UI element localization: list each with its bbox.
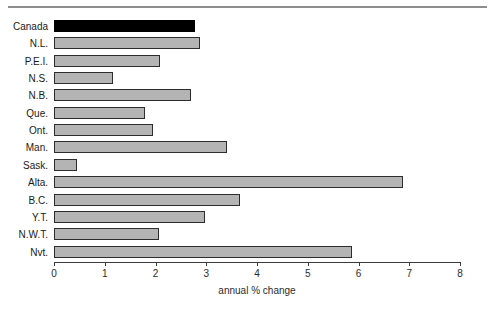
bar-category-label: N.L. [0, 38, 48, 50]
bar-row: Canada [0, 20, 501, 37]
x-axis-title: annual % change [54, 285, 460, 296]
bar-man[interactable] [54, 141, 227, 153]
bar-p-e-i[interactable] [54, 55, 160, 67]
x-tick-mark [308, 262, 309, 266]
bar-category-label: Man. [0, 142, 48, 154]
bar-row: Y.T. [0, 211, 501, 228]
bar-alta[interactable] [54, 176, 403, 188]
x-tick-mark [156, 262, 157, 266]
bar-y-t[interactable] [54, 211, 205, 223]
bar-row: B.C. [0, 194, 501, 211]
bar-category-label: N.B. [0, 90, 48, 102]
x-tick-mark [257, 262, 258, 266]
plot-area: CanadaN.L.P.E.I.N.S.N.B.Que.Ont.Man.Sask… [0, 0, 501, 311]
bar-canada[interactable] [54, 20, 195, 32]
bar-row: Nvt. [0, 246, 501, 263]
bar-category-label: B.C. [0, 195, 48, 207]
x-tick-label: 0 [39, 268, 69, 280]
bar-n-b[interactable] [54, 89, 191, 101]
bar-sask[interactable] [54, 159, 77, 171]
x-tick-label: 4 [242, 268, 272, 280]
bar-b-c[interactable] [54, 194, 240, 206]
bar-row: Alta. [0, 176, 501, 193]
bar-category-label: N.W.T. [0, 229, 48, 241]
bar-nvt[interactable] [54, 246, 352, 258]
x-tick-mark [54, 262, 55, 266]
x-tick-mark [206, 262, 207, 266]
bar-category-label: Alta. [0, 177, 48, 189]
bar-row: Ont. [0, 124, 501, 141]
bar-row: Sask. [0, 159, 501, 176]
bar-row: N.L. [0, 37, 501, 54]
bar-row: N.W.T. [0, 228, 501, 245]
bar-row: Man. [0, 141, 501, 158]
x-tick-mark [460, 262, 461, 266]
x-tick-mark [105, 262, 106, 266]
x-tick-label: 8 [445, 268, 475, 280]
bar-category-label: Nvt. [0, 247, 48, 259]
bar-row: N.S. [0, 72, 501, 89]
x-tick-label: 7 [394, 268, 424, 280]
x-tick-label: 5 [293, 268, 323, 280]
bar-category-label: Ont. [0, 125, 48, 137]
chart-root: CanadaN.L.P.E.I.N.S.N.B.Que.Ont.Man.Sask… [0, 0, 501, 311]
x-tick-label: 6 [344, 268, 374, 280]
bar-category-label: N.S. [0, 73, 48, 85]
bar-row: N.B. [0, 89, 501, 106]
x-tick-mark [359, 262, 360, 266]
x-tick-label: 1 [90, 268, 120, 280]
bar-category-label: Sask. [0, 160, 48, 172]
bar-n-w-t[interactable] [54, 228, 159, 240]
bar-row: P.E.I. [0, 55, 501, 72]
bar-category-label: P.E.I. [0, 56, 48, 68]
x-tick-mark [409, 262, 410, 266]
bar-n-l[interactable] [54, 37, 200, 49]
bar-category-label: Que. [0, 108, 48, 120]
bar-que[interactable] [54, 107, 145, 119]
bar-ont[interactable] [54, 124, 153, 136]
x-tick-label: 3 [191, 268, 221, 280]
bar-category-label: Y.T. [0, 212, 48, 224]
x-tick-label: 2 [141, 268, 171, 280]
bar-row: Que. [0, 107, 501, 124]
bar-category-label: Canada [0, 21, 48, 33]
bar-n-s[interactable] [54, 72, 113, 84]
